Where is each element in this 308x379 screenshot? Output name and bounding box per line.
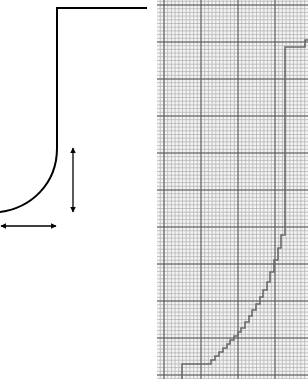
smooth-profile-drawing (0, 0, 155, 379)
graph-paper-grid (157, 0, 308, 379)
smooth-profile-panel (0, 0, 155, 379)
graph-paper-panel (157, 0, 308, 379)
